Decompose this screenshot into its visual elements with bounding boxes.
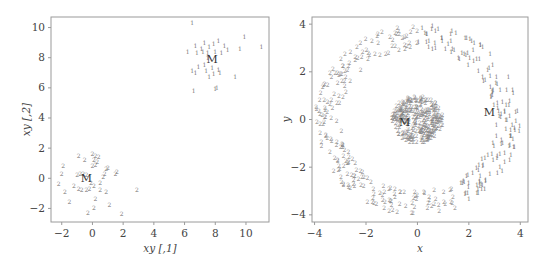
- x-tick-label: 0: [414, 227, 421, 239]
- data-point: 2: [324, 131, 328, 138]
- data-point: 2: [330, 137, 334, 144]
- y-tick-label: 8: [38, 51, 45, 63]
- data-point: 1: [449, 37, 453, 44]
- y-tick-label: 2: [299, 65, 306, 77]
- data-point: 2: [437, 207, 441, 214]
- y-axis-label: xy [,2]: [20, 102, 32, 136]
- y-axis-label: y: [280, 115, 292, 123]
- data-point: 2: [397, 46, 401, 53]
- data-point: 2: [347, 62, 351, 69]
- data-point: 2: [402, 188, 406, 195]
- data-point: 2: [415, 27, 419, 34]
- data-point: 2: [353, 182, 357, 189]
- data-point: 2: [423, 99, 427, 106]
- data-point: 2: [411, 209, 415, 216]
- data-point: 2: [404, 133, 408, 140]
- data-point: 2: [411, 132, 415, 139]
- data-point: 2: [343, 146, 347, 153]
- data-point: 2: [342, 162, 346, 169]
- data-point: 1: [483, 154, 487, 161]
- data-point: 1: [216, 37, 220, 44]
- data-point: 2: [401, 98, 405, 105]
- data-point: 2: [443, 200, 447, 207]
- data-point: 1: [507, 73, 511, 80]
- data-point: 2: [318, 120, 322, 127]
- data-point: 2: [107, 201, 111, 208]
- data-point: 2: [453, 204, 457, 211]
- data-point: 1: [467, 195, 471, 202]
- data-point: 1: [238, 45, 242, 52]
- data-point: 2: [395, 208, 399, 215]
- data-point: 2: [409, 28, 413, 35]
- data-point: 2: [341, 62, 345, 69]
- data-point: 2: [391, 36, 395, 43]
- data-point: 1: [475, 164, 479, 171]
- data-point: 1: [514, 108, 518, 115]
- data-point: 1: [511, 86, 515, 93]
- data-point: 1: [444, 45, 448, 52]
- data-point: 1: [488, 72, 492, 79]
- data-point: 1: [207, 73, 211, 80]
- data-point: 1: [494, 79, 498, 86]
- data-point: 2: [426, 106, 430, 113]
- data-point: 2: [359, 39, 363, 46]
- data-point: 2: [382, 204, 386, 211]
- data-point: 2: [378, 51, 382, 58]
- data-point: 2: [409, 107, 413, 114]
- data-point: 1: [462, 50, 466, 57]
- data-point: 1: [510, 121, 514, 128]
- cluster-center-marker: M: [399, 116, 410, 129]
- data-point: 2: [86, 209, 90, 216]
- data-point: 1: [461, 177, 465, 184]
- data-point: 1: [483, 76, 487, 83]
- data-point: 2: [434, 195, 438, 202]
- data-point: 2: [415, 113, 419, 120]
- data-point: 1: [505, 86, 509, 93]
- data-point: 1: [472, 57, 476, 64]
- y-tick-label: −2: [291, 161, 306, 173]
- data-point: 1: [243, 33, 247, 40]
- data-point: 2: [434, 117, 438, 124]
- data-point: 1: [192, 87, 196, 94]
- data-point: 2: [372, 190, 376, 197]
- cluster-center-marker: M: [207, 53, 218, 66]
- x-tick-label: 4: [151, 227, 158, 239]
- data-point: 1: [420, 24, 424, 31]
- data-point: 2: [427, 123, 431, 130]
- data-point: 2: [319, 89, 323, 96]
- data-point: 2: [94, 195, 98, 202]
- data-point: 2: [374, 200, 378, 207]
- data-point: 2: [384, 50, 388, 57]
- data-point: 2: [353, 53, 357, 60]
- data-point: 2: [325, 98, 329, 105]
- data-point: 1: [425, 30, 429, 37]
- x-tick-label: −2: [54, 227, 69, 239]
- data-point: 2: [421, 107, 425, 114]
- data-point: 2: [336, 79, 340, 86]
- data-point: 1: [465, 34, 469, 41]
- data-point: 2: [60, 170, 64, 177]
- data-point: 1: [470, 37, 474, 44]
- data-point: 2: [336, 157, 340, 164]
- data-point: 2: [325, 108, 329, 115]
- data-point: 2: [376, 39, 380, 46]
- data-point: 2: [343, 77, 347, 84]
- right-scatter-plot: −4−2024−4−2024xy222222222222222222222222…: [280, 17, 528, 254]
- x-tick-label: −2: [358, 227, 373, 239]
- data-point: 2: [329, 114, 333, 121]
- data-point: 2: [420, 134, 424, 141]
- data-point: 2: [322, 118, 326, 125]
- data-point: 1: [218, 69, 222, 76]
- data-point: 1: [186, 48, 190, 55]
- data-point: 1: [466, 61, 470, 68]
- data-point: 2: [381, 196, 385, 203]
- data-point: 2: [332, 90, 336, 97]
- data-point: 1: [488, 50, 492, 57]
- data-point: 2: [405, 42, 409, 49]
- cluster-center-marker: M: [484, 106, 495, 119]
- data-point: 2: [359, 181, 363, 188]
- data-point: 1: [480, 185, 484, 192]
- data-point: 2: [393, 193, 397, 200]
- data-point: 2: [338, 99, 342, 106]
- data-point: 2: [404, 202, 408, 209]
